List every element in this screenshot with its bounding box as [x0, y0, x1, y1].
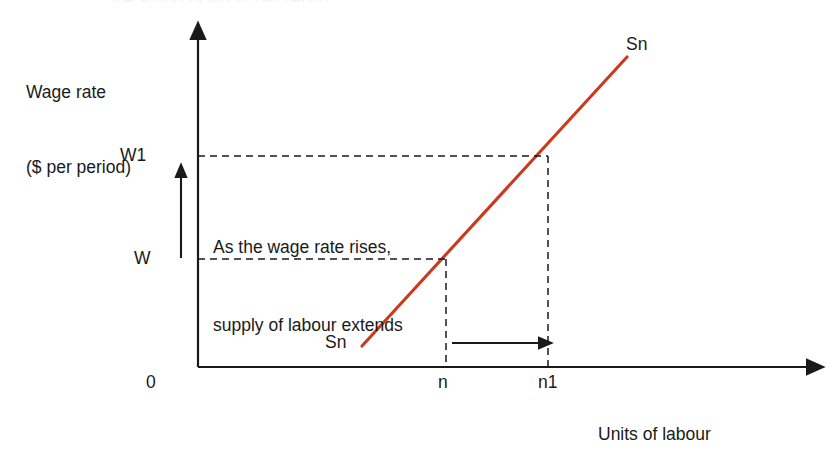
x-axis-title-line1: Units of labour	[598, 422, 758, 447]
x-axis-title: Units of labour employed per period	[598, 372, 758, 450]
origin-label: 0	[146, 371, 156, 393]
supply-of-labour-chart: the supply of labour per period	[0, 0, 840, 450]
curve-label-sn-top: Sn	[626, 33, 647, 55]
y-tick-label-w: W	[134, 247, 151, 269]
annotation-line1: As the wage rate rises,	[213, 234, 403, 260]
x-tick-label-n1: n1	[538, 371, 557, 393]
annotation-text: As the wage rate rises, supply of labour…	[213, 182, 403, 390]
y-tick-label-w1: W1	[120, 144, 146, 166]
y-axis-title-line1: Wage rate	[26, 80, 131, 105]
annotation-line2: supply of labour extends	[213, 312, 403, 338]
y-axis-title: Wage rate ($ per period)	[26, 30, 131, 230]
x-tick-label-n: n	[438, 371, 448, 393]
y-axis-title-line2: ($ per period)	[26, 155, 131, 180]
curve-label-sn-bottom: Sn	[325, 331, 346, 353]
